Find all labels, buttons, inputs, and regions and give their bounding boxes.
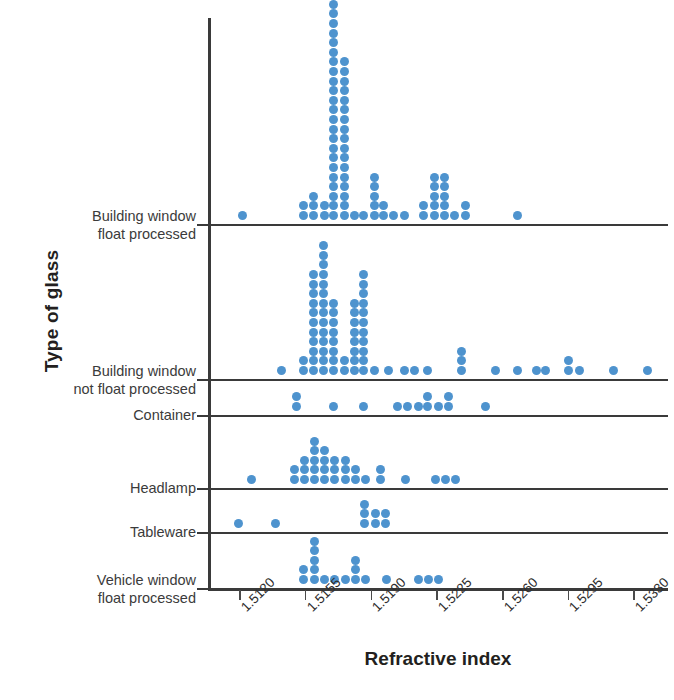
data-point — [310, 575, 319, 584]
data-point — [329, 0, 338, 9]
data-point — [329, 173, 338, 182]
data-point — [320, 201, 329, 210]
data-point — [440, 201, 449, 210]
data-point — [370, 182, 379, 191]
data-point — [329, 402, 338, 411]
data-point — [457, 347, 466, 356]
data-point — [309, 201, 318, 210]
data-point — [434, 402, 443, 411]
data-point — [340, 86, 349, 95]
data-point — [424, 575, 433, 584]
x-axis-title: Refractive index — [208, 648, 668, 670]
data-point — [329, 318, 338, 327]
x-axis-tick — [502, 590, 504, 600]
data-point — [351, 465, 360, 474]
data-point — [320, 456, 329, 465]
data-point — [359, 318, 368, 327]
data-point — [329, 57, 338, 66]
data-point — [434, 575, 443, 584]
data-point — [329, 48, 338, 57]
data-point — [329, 144, 338, 153]
data-point — [310, 556, 319, 565]
data-point — [329, 77, 338, 86]
data-point — [329, 308, 338, 317]
data-point — [359, 402, 368, 411]
data-point — [309, 270, 318, 279]
y-axis-tick — [197, 415, 208, 417]
data-point — [430, 211, 439, 220]
data-point — [441, 475, 450, 484]
data-point — [320, 465, 329, 474]
data-point — [340, 115, 349, 124]
data-point — [351, 565, 360, 574]
data-point — [643, 366, 652, 375]
data-point — [414, 575, 423, 584]
data-point — [299, 356, 308, 365]
data-point — [329, 163, 338, 172]
data-point — [309, 328, 318, 337]
data-point — [376, 465, 385, 474]
data-point — [329, 153, 338, 162]
data-point — [271, 519, 280, 528]
data-point — [319, 251, 328, 260]
y-axis-tick — [197, 532, 208, 534]
data-point — [340, 356, 349, 365]
data-point — [532, 366, 541, 375]
data-point — [330, 465, 339, 474]
data-point — [340, 192, 349, 201]
data-point — [290, 475, 299, 484]
data-point — [340, 134, 349, 143]
data-point — [330, 456, 339, 465]
data-point — [340, 67, 349, 76]
data-point — [329, 211, 338, 220]
data-point — [310, 537, 319, 546]
data-point — [310, 475, 319, 484]
data-point — [238, 211, 247, 220]
data-point — [329, 29, 338, 38]
data-point — [319, 356, 328, 365]
data-point — [419, 211, 428, 220]
data-point — [309, 289, 318, 298]
data-point — [350, 211, 359, 220]
data-point — [400, 366, 409, 375]
data-point — [451, 475, 460, 484]
data-point — [381, 509, 390, 518]
data-point — [423, 402, 432, 411]
data-point — [329, 192, 338, 201]
data-point — [370, 192, 379, 201]
data-point — [350, 366, 359, 375]
data-point — [309, 337, 318, 346]
data-point — [384, 366, 393, 375]
data-point — [350, 347, 359, 356]
data-point — [381, 519, 390, 528]
x-axis-tick — [239, 590, 241, 600]
data-point — [379, 211, 388, 220]
data-point — [310, 446, 319, 455]
data-point — [351, 475, 360, 484]
data-point — [360, 519, 369, 528]
data-point — [234, 519, 243, 528]
y-axis-label-headlamp: Headlamp — [6, 479, 196, 497]
data-point — [371, 509, 380, 518]
data-point — [440, 182, 449, 191]
data-point — [340, 153, 349, 162]
data-point — [319, 241, 328, 250]
data-point — [359, 356, 368, 365]
data-point — [359, 366, 368, 375]
data-point — [329, 356, 338, 365]
y-axis-tick — [197, 488, 208, 490]
data-point — [329, 9, 338, 18]
data-point — [300, 475, 309, 484]
data-point — [329, 201, 338, 210]
data-point — [310, 437, 319, 446]
data-point — [309, 211, 318, 220]
data-point — [430, 192, 439, 201]
x-axis-tick — [305, 590, 307, 600]
y-axis-label-building-window-not-float-processed: Building window not float processed — [6, 362, 196, 398]
data-point — [309, 366, 318, 375]
data-point — [430, 182, 439, 191]
data-point — [350, 356, 359, 365]
data-point — [393, 402, 402, 411]
data-point — [309, 192, 318, 201]
y-axis-tick — [197, 588, 208, 590]
